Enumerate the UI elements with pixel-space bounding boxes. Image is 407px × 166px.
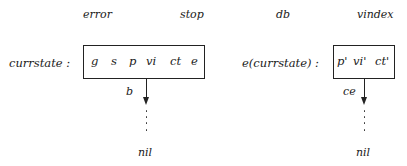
- ellipsis-dot: [364, 116, 366, 118]
- cell-g: g: [91, 55, 98, 68]
- label-vindex: vindex: [357, 9, 394, 21]
- label-db: db: [276, 9, 290, 21]
- e-currstate-label: e(currstate) :: [242, 57, 319, 69]
- ellipsis-dot: [146, 116, 148, 118]
- currstate-label: currstate :: [9, 57, 70, 69]
- cell-vi: vi: [146, 55, 156, 68]
- cell-vi-prime: vi': [353, 55, 366, 68]
- nil-terminal-right: nil: [356, 147, 370, 159]
- ellipsis-dot: [364, 110, 366, 112]
- cell-s: s: [111, 55, 117, 68]
- cell-ct: ct: [170, 55, 181, 68]
- currstate-record-box: g s p vi ct e: [83, 45, 205, 79]
- ellipsis-dot: [364, 129, 366, 131]
- arrow-down-icon: [361, 97, 367, 105]
- ellipsis-dot: [146, 122, 148, 124]
- cell-ct-prime: ct': [375, 55, 389, 68]
- label-error: error: [83, 9, 112, 21]
- pointer-line-b: [146, 79, 147, 99]
- cell-p: p: [129, 55, 136, 68]
- ellipsis-dot: [364, 122, 366, 124]
- label-stop: stop: [180, 9, 204, 21]
- ellipsis-dot: [146, 110, 148, 112]
- pointer-label-b: b: [126, 86, 133, 98]
- pointer-label-ce: ce: [343, 86, 356, 98]
- cell-p-prime: p': [337, 55, 348, 68]
- ellipsis-dot: [146, 129, 148, 131]
- e-currstate-record-box: p' vi' ct': [333, 45, 395, 79]
- pointer-line-ce: [364, 79, 365, 99]
- cell-e: e: [191, 55, 198, 68]
- arrow-down-icon: [143, 97, 149, 105]
- nil-terminal-left: nil: [138, 147, 152, 159]
